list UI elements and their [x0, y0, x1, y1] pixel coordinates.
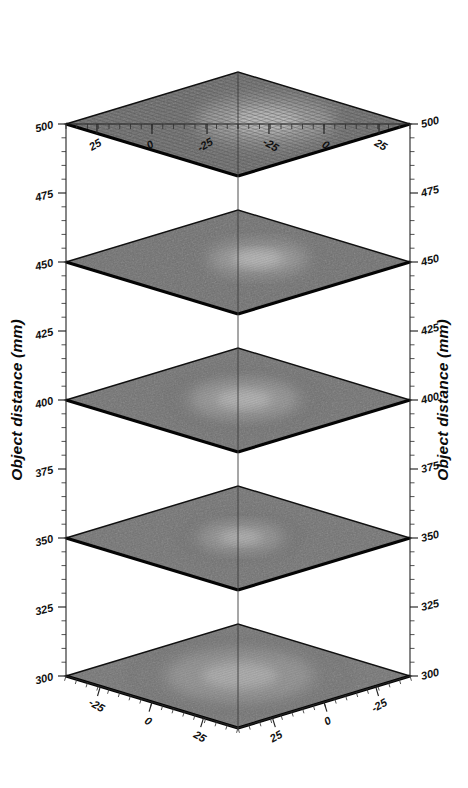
- axis-tick-label: 475: [419, 183, 442, 200]
- axis-tick-label: -25: [87, 696, 108, 715]
- axis-tick-label: 500: [34, 118, 56, 134]
- axis-tick-label: 400: [33, 394, 56, 411]
- vertical-axis-title-right-text: Object distance (mm): [434, 319, 451, 481]
- axis-tick-label: 350: [34, 532, 56, 548]
- axis-tick-label: 0: [322, 714, 334, 728]
- figure-canvas: 5004754504254003753503253005004754504254…: [0, 0, 468, 788]
- axis-tick-label: 450: [419, 252, 442, 269]
- axis-tick-label: 475: [33, 187, 56, 204]
- vertical-axis-title-left-text: Object distance (mm): [8, 319, 25, 481]
- axis-tick-label: 350: [420, 528, 442, 544]
- axis-tick-label: 25: [191, 728, 209, 745]
- axis-tick-label: -25: [369, 696, 390, 715]
- axis-tick-label: 25: [86, 136, 104, 153]
- slice-stack-plot: 5004754504254003753503253005004754504254…: [0, 0, 468, 788]
- axis-tick-label: 500: [420, 114, 442, 130]
- axis-tick-label: 0: [143, 714, 155, 728]
- axis-tick-label: 25: [372, 136, 390, 153]
- axis-tick-label: 375: [34, 463, 56, 479]
- axis-tick-label: 425: [33, 325, 56, 342]
- axis-tick-label: 25: [267, 728, 285, 745]
- axis-tick-label: 325: [420, 597, 442, 613]
- axis-tick-label: 300: [420, 666, 442, 682]
- axis-tick-label: 325: [34, 601, 56, 617]
- axis-tick-label: 450: [33, 256, 56, 273]
- axis-tick-label: 300: [34, 670, 56, 686]
